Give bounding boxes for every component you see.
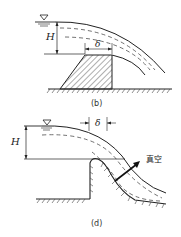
diagram-d: δ H [10,117,166,228]
vacuum-label: 真空 [146,154,162,164]
head-label: H [45,31,55,42]
caption-d: (d) [91,219,102,228]
weir-flow-diagrams: H δ (b) [0,0,181,237]
trapezoidal-weir [60,55,112,89]
nappe-lower-surface [112,55,145,75]
diagram-b: H δ (b) [35,15,172,108]
water-surface-symbol [41,120,52,130]
water-surface-symbol [38,15,50,26]
ground-hatching [37,199,85,203]
crest-width-label: δ [95,118,100,128]
ground-hatching [47,89,170,93]
crest-width-label: δ [95,39,100,49]
streamline [42,135,162,198]
caption-b: (b) [91,99,102,108]
head-label: H [10,136,20,147]
weir-hatching [90,163,164,208]
